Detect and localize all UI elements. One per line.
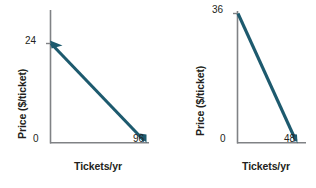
left-x-axis-label: Tickets/yr	[46, 160, 150, 172]
left-x-tick-label: 96	[133, 133, 144, 144]
right-x-axis-label: Tickets/yr	[218, 160, 314, 172]
chart-panel-left: Price ($/ticket) Tickets/yr 24 0 96	[0, 0, 160, 188]
right-y-axis-label: Price ($/ticket)	[194, 66, 206, 136]
demand-curve-figure: Price ($/ticket) Tickets/yr 24 0 96 Pric…	[0, 0, 316, 188]
chart-panel-right: Price ($/ticket) Tickets/yr 36 0 48	[156, 0, 316, 188]
right-demand-curve	[238, 14, 296, 142]
left-y-tick-label: 24	[25, 35, 36, 46]
left-origin-label: 0	[33, 133, 39, 144]
left-demand-curve	[51, 44, 145, 142]
right-y-tick-label: 36	[212, 4, 223, 15]
right-x-tick-label: 48	[284, 133, 295, 144]
right-origin-label: 0	[220, 133, 226, 144]
left-y-axis-label: Price ($/ticket)	[16, 69, 28, 139]
